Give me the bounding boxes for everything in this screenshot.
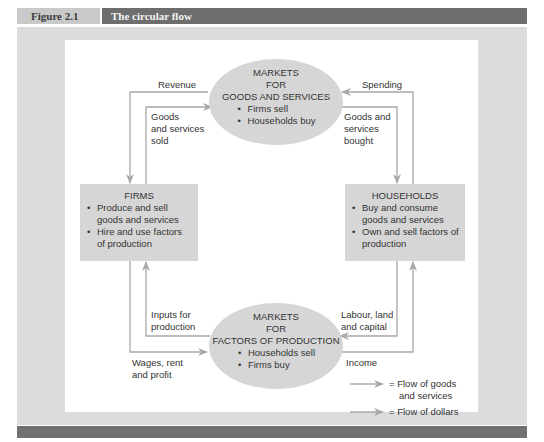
factor-market-bullet: Firms buy [237,359,315,371]
goods-sold-line: Goods [151,111,204,123]
wages-label: Wages, rent and profit [132,357,183,381]
legend-goods-label: = Flow of goods and services [389,378,456,402]
labour-line: Labour, land [341,309,393,321]
goods-market-bullet: Firms sell [236,103,315,115]
goods-market-title-1: MARKETS [206,67,346,79]
labour-label: Labour, land and capital [341,309,393,333]
inputs-line: production [151,321,195,333]
goods-bought-line: services [344,123,390,135]
goods-market-bullet: Households buy [236,115,315,127]
factor-market-bullets: Households sell Firms buy [237,347,315,371]
households-bullet: Buy and consume goods and services [351,202,459,226]
firms-node: FIRMS Produce and sell goods and service… [80,184,198,261]
goods-market-bullets: Firms sell Households buy [236,103,315,127]
spending-label: Spending [362,79,402,91]
goods-sold-line: sold [151,135,204,147]
income-label: Income [346,357,377,369]
goods-bought-line: bought [344,135,390,147]
inputs-label: Inputs for production [151,309,195,333]
labour-line: and capital [341,321,393,333]
factor-market-title-1: MARKETS [203,311,349,323]
households-bullet: Own and sell factors of production [351,226,459,250]
firms-bullets: Produce and sell goods and services Hire… [86,202,192,250]
goods-sold-label: Goods and services sold [151,111,204,147]
goods-bought-line: Goods and [344,111,390,123]
households-node: HOUSEHOLDS Buy and consume goods and ser… [345,184,465,261]
factor-market-title-3: FACTORS OF PRODUCTION [203,335,349,347]
goods-bought-label: Goods and services bought [344,111,390,147]
factor-market-node: MARKETS FOR FACTORS OF PRODUCTION Househ… [203,311,349,371]
revenue-label: Revenue [158,79,196,91]
households-title: HOUSEHOLDS [351,190,459,202]
goods-market-title-2: FOR [206,79,346,91]
firms-bullet: Hire and use factors of production [86,226,192,250]
legend-goods-line: and services [389,390,456,402]
wages-flow-arrow [130,261,207,352]
legend-goods-line: = Flow of goods [389,378,456,390]
inputs-line: Inputs for [151,309,195,321]
income-flow-arrow [342,262,413,352]
households-bullets: Buy and consume goods and services Own a… [351,202,459,250]
goods-sold-line: and services [151,123,204,135]
firms-bullet: Produce and sell goods and services [86,202,192,226]
goods-market-node: MARKETS FOR GOODS AND SERVICES Firms sel… [206,67,346,127]
wages-line: and profit [132,369,183,381]
wages-line: Wages, rent [132,357,183,369]
factor-market-title-2: FOR [203,323,349,335]
firms-title: FIRMS [86,190,192,202]
goods-market-title-3: GOODS AND SERVICES [206,91,346,103]
legend-dollar-label: = Flow of dollars [389,406,458,418]
factor-market-bullet: Households sell [237,347,315,359]
